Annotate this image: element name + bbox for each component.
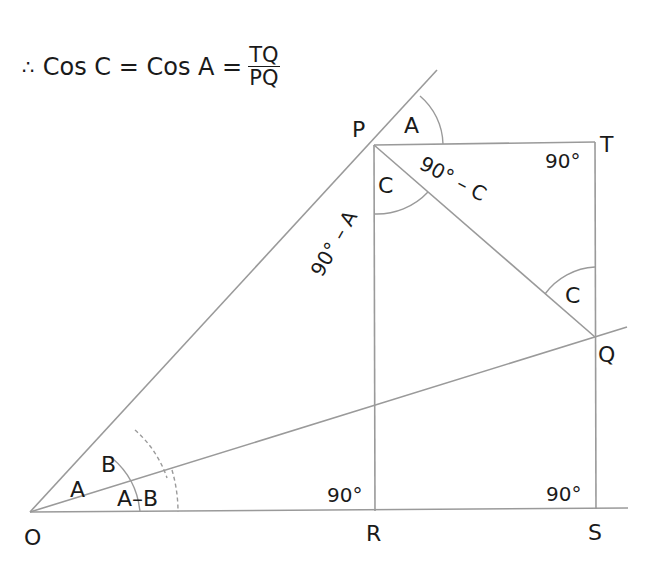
angle-label-A-at-O: A	[70, 477, 85, 502]
point-label-Q: Q	[598, 342, 615, 367]
angle-label-B-at-O: B	[101, 452, 116, 477]
point-label-P: P	[352, 117, 365, 142]
point-label-O: O	[24, 525, 41, 550]
angle-label-90-minus-C: 90° – C	[416, 151, 491, 206]
angle-label-C-at-Q: C	[565, 283, 580, 308]
angle-label-90-at-T: 90°	[545, 149, 580, 173]
point-label-S: S	[588, 520, 602, 545]
angle-label-90-minus-A: 90° – A	[306, 206, 363, 280]
point-label-R: R	[366, 521, 381, 546]
angle-label-A-minus-B: A–B	[117, 486, 158, 511]
diagram-labels: P T Q O R S A C 90° – C 90° 90° – A C A …	[0, 0, 653, 569]
angle-label-90-at-S: 90°	[546, 482, 581, 506]
angle-label-C-at-P: C	[378, 173, 393, 198]
point-label-T: T	[599, 132, 614, 157]
angle-label-A-at-P: A	[404, 113, 419, 138]
angle-label-90-at-R: 90°	[327, 483, 362, 507]
